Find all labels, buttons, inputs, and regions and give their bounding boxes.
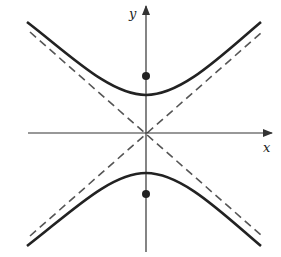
focus-upper: [142, 72, 150, 80]
y-axis-label: y: [128, 6, 137, 21]
x-axis-label: x: [263, 140, 271, 155]
focus-lower: [142, 190, 150, 198]
lower-branch: [27, 173, 261, 246]
hyperbola-diagram: y x: [0, 0, 281, 257]
upper-branch: [27, 22, 261, 95]
